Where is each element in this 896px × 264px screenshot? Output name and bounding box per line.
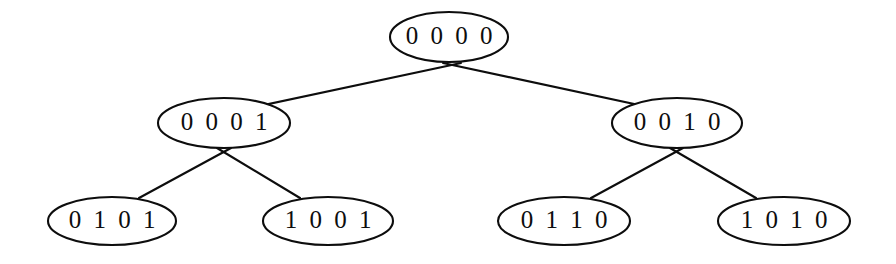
tree-node-0000[interactable]: 0 0 0 0 <box>390 12 508 62</box>
edge-0001-1001 <box>217 148 300 198</box>
tree-node-0110[interactable]: 0 1 1 0 <box>498 197 630 245</box>
tree-node-0001[interactable]: 0 0 0 1 <box>158 98 290 148</box>
tree-canvas: 0 0 0 00 0 0 10 0 1 00 1 0 11 0 0 10 1 1… <box>0 0 896 264</box>
node-label-0000: 0 0 0 0 <box>406 22 496 49</box>
node-label-0101: 0 1 0 1 <box>69 206 159 233</box>
node-label-0001: 0 0 0 1 <box>181 108 271 135</box>
node-label-1010: 1 0 1 0 <box>741 206 831 233</box>
edge-0001-0101 <box>139 148 231 198</box>
edge-0010-0110 <box>591 148 683 198</box>
tree-nodes-group: 0 0 0 00 0 0 10 0 1 00 1 0 11 0 0 10 1 1… <box>48 12 850 245</box>
binary-tree-figure: 0 0 0 00 0 0 10 0 1 00 1 0 11 0 0 10 1 1… <box>0 0 896 264</box>
node-label-0010: 0 0 1 0 <box>634 108 724 135</box>
tree-node-0010[interactable]: 0 0 1 0 <box>612 98 742 148</box>
node-label-0110: 0 1 1 0 <box>521 206 611 233</box>
edge-0010-1010 <box>670 148 756 198</box>
tree-node-1010[interactable]: 1 0 1 0 <box>718 197 850 245</box>
tree-node-0101[interactable]: 0 1 0 1 <box>48 197 176 245</box>
tree-node-1001[interactable]: 1 0 0 1 <box>263 197 393 245</box>
node-label-1001: 1 0 0 1 <box>285 206 375 233</box>
